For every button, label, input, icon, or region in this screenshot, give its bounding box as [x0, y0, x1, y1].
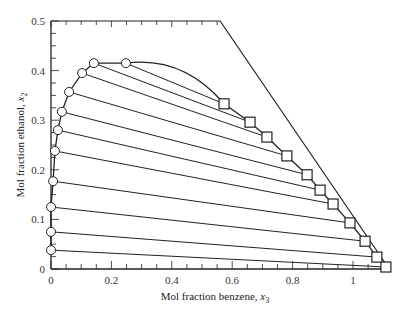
circle-marker — [89, 59, 98, 68]
circle-marker — [78, 69, 87, 78]
y-tick-label: 0 — [40, 263, 46, 275]
tie-line — [62, 112, 307, 175]
square-marker — [328, 199, 338, 209]
binodal-curve — [51, 62, 386, 267]
circle-marker — [65, 87, 74, 96]
x-tick-label: 0.4 — [165, 274, 179, 286]
square-marker — [381, 262, 391, 272]
tie-lines — [51, 63, 386, 267]
square-marker — [315, 185, 325, 195]
square-marker — [262, 132, 272, 142]
square-marker — [372, 252, 382, 262]
y-tick-label: 0.2 — [31, 164, 45, 176]
square-marker — [219, 99, 229, 109]
tie-line — [82, 73, 267, 137]
x-axis-label: Mol fraction benzene, x3 — [161, 290, 269, 305]
tie-line — [51, 232, 377, 257]
tie-line — [53, 181, 350, 223]
data-markers — [47, 59, 391, 272]
y-tick-label: 0.5 — [31, 15, 45, 27]
x-tick-label: 0.6 — [225, 274, 239, 286]
y-tick-label: 0.4 — [31, 65, 45, 77]
circle-marker — [47, 203, 56, 212]
triangle-boundary-line — [51, 21, 389, 269]
circle-marker — [121, 59, 130, 68]
axes: 00.20.40.60.8100.10.20.30.40.5 — [31, 15, 389, 286]
square-marker — [360, 236, 370, 246]
circle-marker — [53, 126, 62, 135]
ternary-tie-line-chart: 00.20.40.60.8100.10.20.30.40.5 Mol fract… — [0, 0, 407, 316]
circle-marker — [47, 227, 56, 236]
phase-boundary — [51, 21, 389, 269]
x-tick-label: 0 — [48, 274, 54, 286]
circle-marker — [49, 177, 58, 186]
binodal-curves — [51, 62, 386, 267]
tie-line — [126, 63, 224, 104]
square-marker — [245, 117, 255, 127]
x-tick-label: 0.8 — [286, 274, 300, 286]
circle-marker — [57, 107, 66, 116]
circle-marker — [47, 246, 56, 255]
x-tick-label: 0.2 — [105, 274, 119, 286]
tie-line — [58, 130, 320, 190]
square-marker — [302, 170, 312, 180]
tie-line — [51, 250, 386, 267]
x-tick-label: 1 — [350, 274, 356, 286]
square-marker — [282, 151, 292, 161]
square-marker — [345, 218, 355, 228]
tie-line — [94, 63, 250, 122]
y-tick-label: 0.3 — [31, 114, 45, 126]
y-axis-label: Mol fraction ethanol, x2 — [14, 93, 29, 198]
tie-line — [51, 207, 365, 241]
y-tick-label: 0.1 — [31, 213, 45, 225]
circle-marker — [50, 146, 59, 155]
